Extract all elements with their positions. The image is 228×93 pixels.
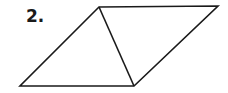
parallelogram-outline	[20, 6, 218, 86]
diagonal-line	[99, 7, 134, 86]
parallelogram-figure	[0, 0, 228, 93]
